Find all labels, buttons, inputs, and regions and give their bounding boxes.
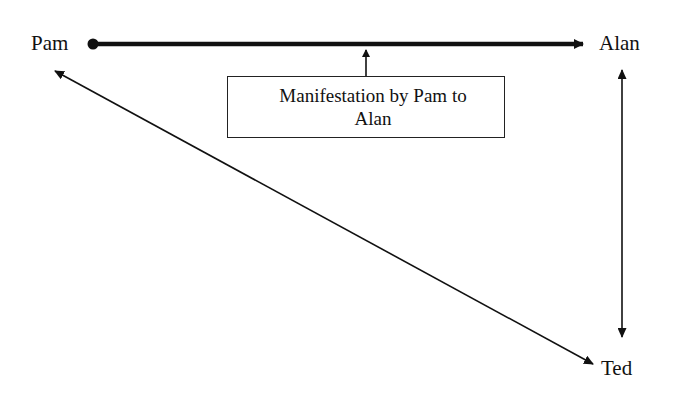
node-pam: Pam (31, 33, 68, 54)
diagram-edges (0, 0, 679, 400)
diagram-canvas: Pam Alan Ted Manifestation by Pam to Ala… (0, 0, 679, 400)
annotation-line-2: Alan (355, 107, 392, 130)
node-alan: Alan (599, 33, 640, 54)
annotation-line-1: Manifestation by Pam to (279, 84, 466, 107)
annotation-box: Manifestation by Pam to Alan (227, 76, 505, 138)
edge-pam-to-alan (88, 39, 584, 50)
node-ted: Ted (601, 358, 632, 379)
